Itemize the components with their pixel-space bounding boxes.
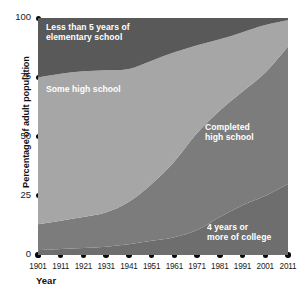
- y-tick-dot: [36, 193, 41, 198]
- x-tick-label: 2011: [276, 262, 300, 271]
- y-tick-dot: [36, 134, 41, 139]
- x-tick-dot: [103, 252, 109, 258]
- x-tick-label: 2001: [253, 262, 277, 271]
- x-tick-dot: [149, 252, 155, 258]
- band-label-completed-high-school: Completed high school: [205, 122, 254, 143]
- x-tick-dot: [35, 252, 41, 258]
- stacked-area-plot: [0, 0, 301, 292]
- x-tick-dot: [263, 252, 269, 258]
- x-tick-label: 1901: [26, 262, 50, 271]
- x-tick-label: 1951: [140, 262, 164, 271]
- y-tick-label: 50: [9, 131, 31, 141]
- x-tick-label: 1921: [71, 262, 95, 271]
- y-tick-label: 75: [9, 71, 31, 81]
- band-label-four-years-college: 4 years or more of college: [207, 222, 271, 243]
- x-tick-label: 1991: [231, 262, 255, 271]
- area-band: [38, 184, 288, 255]
- y-tick-dot: [36, 16, 41, 21]
- x-tick-dot: [217, 252, 223, 258]
- area-band: [38, 46, 288, 250]
- x-tick-label: 1941: [117, 262, 141, 271]
- x-tick-dot: [194, 252, 200, 258]
- y-tick-label: 0: [9, 249, 31, 259]
- y-tick-label: 100: [9, 12, 31, 22]
- band-label-some-high-school: Some high school: [46, 84, 121, 94]
- x-tick-dot: [58, 252, 64, 258]
- x-tick-label: 1911: [49, 262, 73, 271]
- x-tick-dot: [81, 252, 87, 258]
- x-tick-dot: [240, 252, 246, 258]
- x-tick-dot: [126, 252, 132, 258]
- education-attainment-area-chart: Percentage of adult population Year 0255…: [0, 0, 301, 292]
- band-label-less-than-5-years: Less than 5 years of elementary school: [46, 22, 130, 43]
- x-tick-dot: [172, 252, 178, 258]
- x-tick-label: 1961: [162, 262, 186, 271]
- x-tick-label: 1971: [185, 262, 209, 271]
- y-tick-dot: [36, 75, 41, 80]
- x-tick-dot: [285, 252, 291, 258]
- x-tick-label: 1931: [94, 262, 118, 271]
- y-tick-label: 25: [9, 190, 31, 200]
- x-tick-label: 1981: [208, 262, 232, 271]
- x-axis-title: Year: [36, 275, 56, 286]
